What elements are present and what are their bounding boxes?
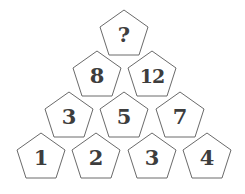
pentagon-row2-col2: 7 (155, 91, 205, 138)
pentagon-row0-col0: ? (99, 9, 149, 56)
pentagon-value: 4 (182, 132, 232, 179)
pentagon-value: 1 (16, 132, 66, 179)
pentagon-value: 8 (72, 50, 122, 97)
pentagon-value: 3 (44, 91, 94, 138)
pentagon-row3-col3: 4 (182, 132, 232, 179)
pentagon-row3-col2: 3 (127, 132, 177, 179)
pentagon-value: 3 (127, 132, 177, 179)
pentagon-row3-col0: 1 (16, 132, 66, 179)
pentagon-row2-col1: 5 (99, 91, 149, 138)
pentagon-row2-col0: 3 (44, 91, 94, 138)
pentagon-value: ? (99, 9, 149, 56)
pentagon-row1-col0: 8 (72, 50, 122, 97)
pentagon-row1-col1: 12 (127, 50, 177, 97)
pentagon-value: 2 (71, 132, 121, 179)
pentagon-value: 5 (99, 91, 149, 138)
pentagon-value: 7 (155, 91, 205, 138)
pentagon-value: 12 (127, 50, 177, 97)
pentagon-row3-col1: 2 (71, 132, 121, 179)
